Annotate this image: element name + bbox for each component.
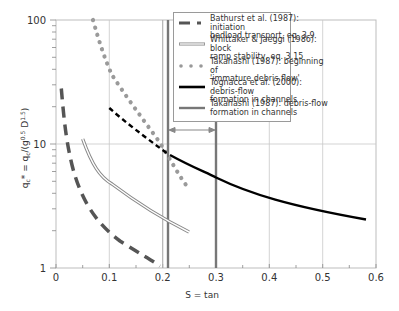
solid-gray-line-icon <box>178 103 206 113</box>
svg-text:1: 1 <box>40 263 46 274</box>
x-axis-title: S = tan <box>185 290 219 300</box>
solid-black-line-icon <box>178 82 206 92</box>
svg-text:qc* = qc/(g0.5 D1.5): qc* = qc/(g0.5 D1.5) <box>19 108 31 189</box>
x-tick-labels: 0 0.1 0.2 0.3 0.4 0.5 0.6 <box>53 272 384 283</box>
svg-text:0.4: 0.4 <box>261 272 277 283</box>
svg-text:0: 0 <box>53 272 59 283</box>
svg-text:0.2: 0.2 <box>155 272 171 283</box>
y-axis-title: qc* = qc/(g0.5 D1.5) <box>19 108 31 189</box>
svg-text:10: 10 <box>33 139 46 150</box>
legend-item-takahashi-immature: Takahashi (1987): beginning of 'immature… <box>174 58 290 80</box>
svg-text:100: 100 <box>27 15 46 26</box>
y-axis-ticks <box>50 20 56 268</box>
legend-item-bathurst: Bathurst et al. (1987): initiation bedlo… <box>174 15 290 37</box>
svg-text:0.6: 0.6 <box>368 272 384 283</box>
legend-item-tognacca: Tognacca et al. (2000): debris-flow form… <box>174 79 290 101</box>
long-dash-line-icon <box>178 18 206 28</box>
legend-item-takahashi-debris-flow: Takahashi (1987): debris-flow formation … <box>174 100 290 122</box>
dotted-line-icon <box>178 61 206 71</box>
legend-item-whittaker-jaeggi: Whittaker & Jaeggi (1986): block ramp st… <box>174 36 290 58</box>
svg-text:0.3: 0.3 <box>208 272 224 283</box>
svg-text:0.1: 0.1 <box>101 272 117 283</box>
svg-text:0.5: 0.5 <box>315 272 331 283</box>
legend-label: Takahashi (1987): debris-flow formation … <box>210 100 330 117</box>
legend: Bathurst et al. (1987): initiation bedlo… <box>173 12 291 122</box>
double-line-icon <box>178 39 206 49</box>
